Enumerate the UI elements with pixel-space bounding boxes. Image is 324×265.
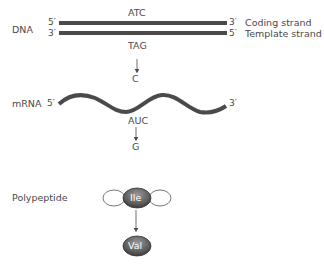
- mrna-codon: AUC: [128, 116, 148, 126]
- val-label: Val: [128, 241, 142, 251]
- mrna-label: mRNA: [12, 99, 41, 109]
- neighbor-amino-acid-left: [103, 190, 125, 206]
- neighbor-amino-acid-right: [149, 190, 171, 206]
- template-strand-label: Template strand: [245, 29, 322, 39]
- coding-codon: ATC: [128, 8, 146, 18]
- mrna-mutation-base: G: [132, 142, 139, 152]
- mrna-5prime: 5′: [47, 99, 55, 108]
- coding-strand-3prime: 3′: [229, 18, 237, 27]
- template-strand-line: [59, 31, 227, 35]
- template-codon: TAG: [128, 41, 147, 51]
- ile-label: Ile: [130, 193, 141, 203]
- dna-label: DNA: [12, 25, 33, 35]
- template-strand-3prime: 3′: [48, 29, 56, 38]
- template-strand-5prime: 5′: [229, 29, 237, 38]
- mrna-strand-wave: [59, 95, 226, 113]
- mrna-3prime: 3′: [229, 99, 237, 108]
- polypeptide-label: Polypeptide: [12, 193, 68, 203]
- coding-strand-label: Coding strand: [245, 18, 312, 28]
- dna-mutation-base: C: [132, 74, 139, 84]
- coding-strand-line: [59, 21, 227, 25]
- coding-strand-5prime: 5′: [48, 18, 56, 27]
- diagram-graphics: [0, 0, 324, 265]
